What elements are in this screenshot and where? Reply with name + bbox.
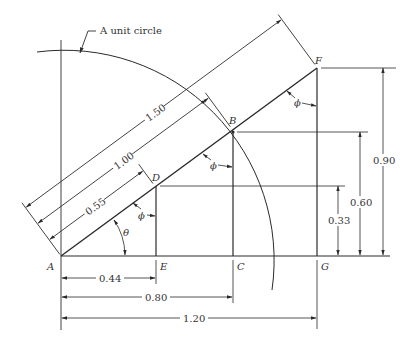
- phi-label-F: ϕ: [294, 97, 301, 108]
- phi-label-D: ϕ: [138, 210, 145, 221]
- circle-dim-dot: [201, 100, 204, 103]
- phi-arrow-F2: [302, 103, 316, 106]
- phi-arrow-D1: [133, 203, 141, 209]
- point-label-B: B: [228, 115, 236, 126]
- point-label-E: E: [159, 261, 168, 272]
- dim-label-055: 0.55: [83, 195, 107, 217]
- unit-circle-label: A unit circle: [99, 25, 162, 36]
- point-label-G: G: [321, 261, 329, 272]
- dim-label-060: 0.60: [350, 197, 372, 208]
- point-label-F: F: [314, 55, 323, 66]
- dim-label-033: 0.33: [328, 215, 350, 226]
- dim-label-080: 0.80: [145, 292, 167, 303]
- diag-ext-F: [278, 15, 315, 65]
- theta-label: θ: [123, 227, 129, 238]
- point-B-dot: [231, 130, 234, 133]
- phi-label-B: ϕ: [210, 160, 217, 171]
- point-label-C: C: [237, 261, 245, 272]
- diag-ext-B: [205, 93, 230, 127]
- similar-triangles-diagram: A unit circle 0.33 0.60 0.90 0.44 0.80 1…: [0, 0, 410, 342]
- diag-ext-D: [139, 164, 153, 183]
- point-label-A: A: [46, 261, 54, 272]
- phi-arrow-D2: [147, 215, 155, 216]
- point-label-D: D: [151, 172, 160, 183]
- dim-label-150: 1.50: [143, 102, 167, 124]
- phi-arrow-B2: [218, 165, 232, 167]
- diag-ext-A: [22, 203, 60, 255]
- dim-label-044: 0.44: [99, 273, 121, 284]
- unit-circle-leader: [80, 31, 96, 53]
- hypotenuse-AF: [61, 68, 317, 256]
- dim-label-100: 1.00: [112, 150, 136, 172]
- dim-label-120: 1.20: [183, 313, 205, 324]
- dim-label-090: 0.90: [373, 155, 395, 166]
